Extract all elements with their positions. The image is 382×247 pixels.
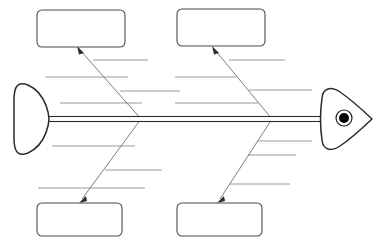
category-box-rect <box>177 203 262 236</box>
category-box-rect <box>177 9 265 46</box>
fish-spine[interactable] <box>46 117 323 122</box>
branch-arrowhead-icon <box>212 46 219 55</box>
category-box-rect <box>37 10 125 47</box>
spine-bar <box>46 117 323 122</box>
fish-tail[interactable] <box>14 84 49 155</box>
fish-eye-pupil-icon <box>339 113 349 123</box>
fishbone-diagram <box>0 0 382 247</box>
sub-cause-group-bottom-left <box>38 146 162 188</box>
fish-head[interactable] <box>321 89 373 150</box>
category-branch-top-right[interactable] <box>212 46 272 119</box>
sub-cause-group-top-left <box>45 60 180 103</box>
category-box-rect <box>37 203 122 236</box>
category-box-bottom-right[interactable] <box>177 203 262 236</box>
fishbone-canvas <box>0 0 382 247</box>
category-box-top-right[interactable] <box>177 9 265 46</box>
sub-cause-group-bottom-right <box>230 141 312 184</box>
category-box-top-left[interactable] <box>37 10 125 47</box>
sub-cause-group-top-right <box>175 60 312 103</box>
category-branch-bottom-left[interactable] <box>79 119 141 203</box>
category-branch-bottom-right[interactable] <box>217 119 272 203</box>
branch-line <box>220 119 272 199</box>
fish-tail-shape <box>14 84 49 155</box>
branch-line <box>82 119 141 199</box>
category-box-bottom-left[interactable] <box>37 203 122 236</box>
category-branch-top-left[interactable] <box>77 46 141 119</box>
